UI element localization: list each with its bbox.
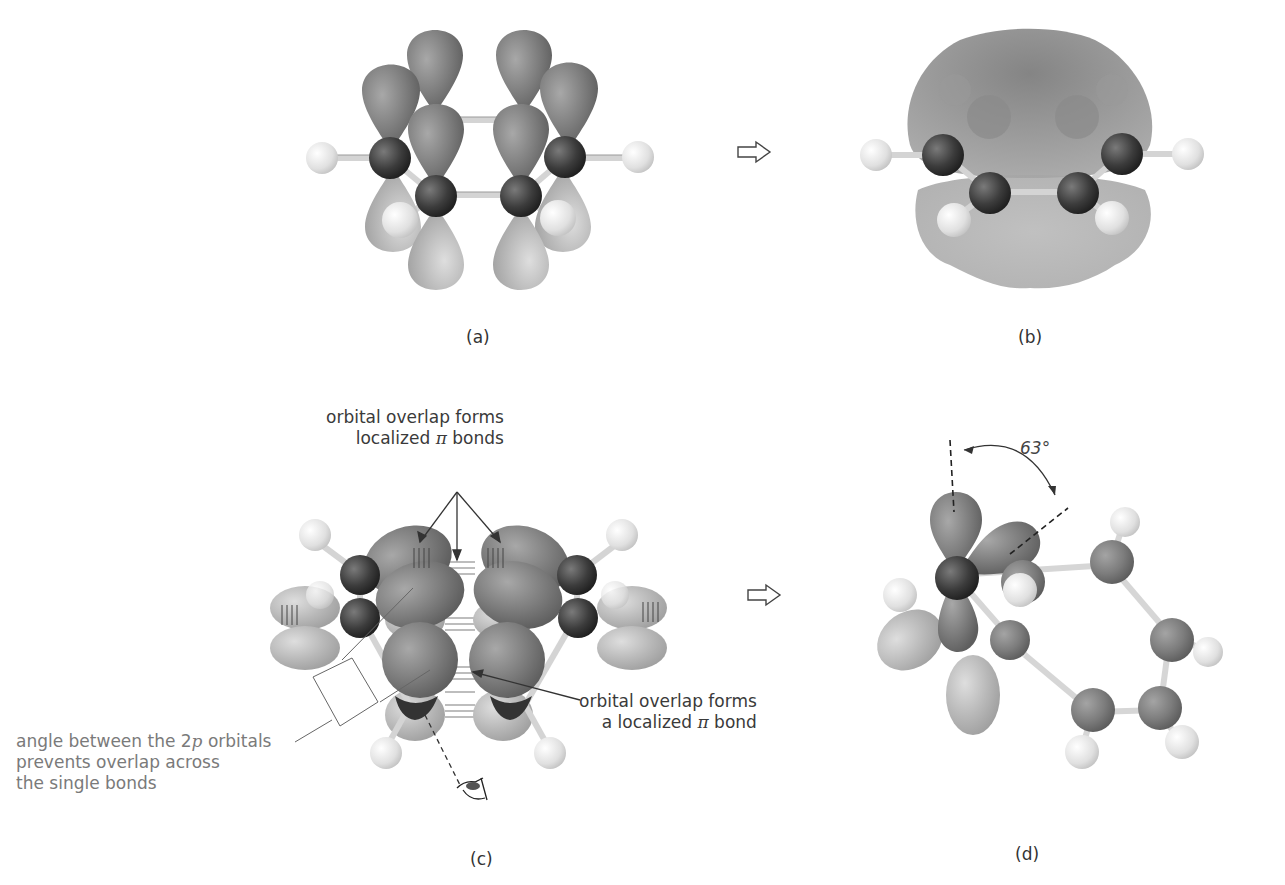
panel-a bbox=[290, 20, 670, 320]
annotation-localized-pi-bonds: orbital overlap forms localized π bonds bbox=[326, 407, 504, 449]
dihedral-view-illustration bbox=[860, 440, 1280, 800]
pi-cloud-illustration bbox=[840, 20, 1220, 320]
angle-label-63-degrees: 63° bbox=[1020, 438, 1050, 458]
panel-d bbox=[860, 440, 1280, 800]
hollow-arrow-icon bbox=[746, 583, 786, 607]
panel-b bbox=[840, 20, 1220, 320]
tub-conformation-illustration bbox=[260, 470, 680, 800]
p-orbitals-illustration bbox=[290, 20, 670, 320]
panel-c bbox=[260, 470, 680, 800]
eye-icon bbox=[453, 772, 493, 808]
panel-label-c: (c) bbox=[470, 849, 493, 869]
panel-label-a: (a) bbox=[466, 327, 490, 347]
annotation-localized-pi-bond: orbital overlap forms a localized π bond bbox=[579, 691, 757, 733]
annotation-angle-prevents-overlap: angle between the 2p orbitals prevents o… bbox=[16, 731, 271, 794]
panel-label-d: (d) bbox=[1015, 844, 1039, 864]
hollow-arrow-icon bbox=[736, 140, 776, 164]
panel-label-b: (b) bbox=[1018, 327, 1042, 347]
